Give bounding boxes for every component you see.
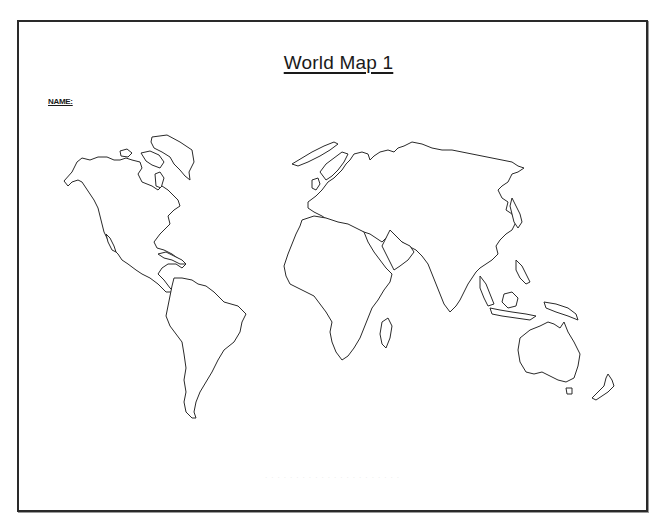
arctic-island-outline bbox=[141, 151, 164, 168]
arctic-island-outline bbox=[155, 172, 164, 188]
borneo-outline bbox=[502, 292, 518, 308]
south-america-outline bbox=[166, 278, 246, 418]
indonesia-islands-outline bbox=[490, 308, 536, 320]
world-map bbox=[2, 2, 661, 527]
arctic-island-outline bbox=[120, 149, 132, 157]
tasmania-outline bbox=[566, 388, 572, 394]
new-guinea-outline bbox=[544, 302, 578, 320]
british-isles-outline bbox=[312, 178, 320, 190]
australia-outline bbox=[518, 322, 580, 382]
footer-note: · · · · · · · · · · · · · · · · · · · · … bbox=[19, 474, 646, 481]
north-america-outline bbox=[64, 157, 186, 292]
malay-peninsula-outline bbox=[480, 276, 494, 306]
page-title: World Map 1 bbox=[19, 52, 646, 74]
name-field-label: NAME: bbox=[48, 97, 73, 106]
madagascar-outline bbox=[380, 318, 392, 348]
new-zealand-outline bbox=[592, 374, 614, 400]
worksheet-page: World Map 1 NAME: · · · · · · · · · · · … bbox=[17, 20, 648, 512]
philippines-outline bbox=[516, 260, 530, 284]
